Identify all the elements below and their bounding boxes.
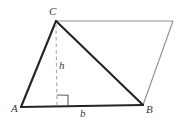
edge-CB-diagonal	[56, 21, 143, 105]
geometry-figure: C A B h b	[0, 0, 180, 127]
height-label: h	[59, 60, 65, 71]
edge-AC	[21, 21, 56, 107]
vertex-label-a: A	[11, 103, 18, 114]
edge-DB	[143, 21, 173, 105]
vertex-label-c: C	[49, 6, 56, 17]
geometry-canvas	[0, 0, 180, 127]
altitude-dashed-line	[56, 24, 57, 106]
base-label: b	[80, 108, 86, 119]
right-angle-marker-icon	[57, 95, 68, 106]
vertex-label-b: B	[146, 104, 153, 115]
